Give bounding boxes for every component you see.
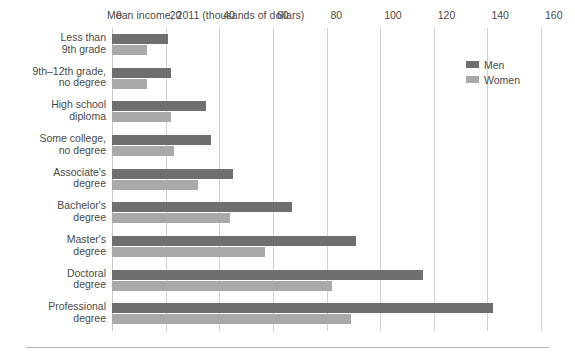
bar-group	[112, 95, 541, 129]
category-label: Professionaldegree	[0, 301, 106, 324]
x-tick-label-160: 160	[545, 9, 563, 21]
bar-women	[112, 112, 171, 122]
category-label: Master'sdegree	[0, 234, 106, 257]
bar-men	[112, 34, 168, 44]
legend-item-women: Women	[466, 73, 520, 86]
x-tick-label-20: 20	[170, 9, 182, 21]
bar-group	[112, 28, 541, 62]
bar-men	[112, 236, 356, 246]
bar-women	[112, 79, 147, 89]
bar-men	[112, 169, 233, 179]
category-label: Some college,no degree	[0, 133, 106, 156]
bar-men	[112, 303, 493, 313]
category-label: High schooldiploma	[0, 99, 106, 122]
category-label: Bachelor'sdegree	[0, 200, 106, 223]
bar-group	[112, 129, 541, 163]
bar-men	[112, 135, 211, 145]
category-axis-labels: Less than9th grade9th–12th grade,no degr…	[0, 28, 106, 331]
legend-label: Women	[484, 74, 520, 86]
bar-men	[112, 270, 423, 280]
bar-group	[112, 264, 541, 298]
bar-men	[112, 68, 171, 78]
category-label: 9th–12th grade,no degree	[0, 66, 106, 89]
legend-swatch-icon	[466, 76, 479, 83]
bar-men	[112, 202, 292, 212]
bar-group	[112, 297, 541, 331]
bar-women	[112, 247, 265, 257]
x-tick-label-80: 80	[331, 9, 343, 21]
bar-group	[112, 163, 541, 197]
bar-women	[112, 180, 198, 190]
category-label: Associate'sdegree	[0, 167, 106, 190]
legend-swatch-icon	[466, 61, 479, 68]
legend-item-men: Men	[466, 58, 520, 71]
x-tick-label-0: 0	[116, 9, 122, 21]
bar-women	[112, 213, 230, 223]
x-tick-label-40: 40	[223, 9, 235, 21]
chart-legend: MenWomen	[466, 58, 520, 88]
x-tick-label-100: 100	[384, 9, 402, 21]
footer-divider	[26, 347, 549, 348]
chart-title: Mean income, 2011 (thousands of dollars)	[107, 9, 304, 21]
x-tick-label-60: 60	[277, 9, 289, 21]
category-label: Doctoraldegree	[0, 268, 106, 291]
category-label: Less than9th grade	[0, 32, 106, 55]
bar-women	[112, 281, 332, 291]
bar-group	[112, 196, 541, 230]
bar-women	[112, 45, 147, 55]
bar-women	[112, 314, 351, 324]
bar-women	[112, 146, 174, 156]
bar-men	[112, 101, 206, 111]
income-by-education-bar-chart: Mean income, 2011 (thousands of dollars)…	[0, 0, 575, 360]
legend-label: Men	[484, 59, 504, 71]
bar-group	[112, 230, 541, 264]
x-tick-label-140: 140	[491, 9, 509, 21]
gridline-160	[541, 28, 542, 331]
x-tick-label-120: 120	[438, 9, 456, 21]
